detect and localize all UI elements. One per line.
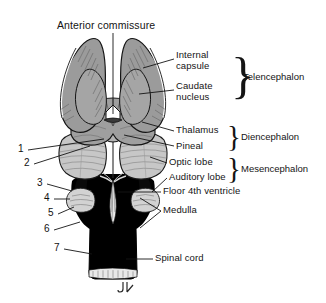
label-internal-capsule-line2: capsule [176, 61, 209, 72]
diencephalon-brace-icon: } [227, 122, 241, 151]
callout-number-6: 6 [44, 223, 50, 234]
label-medulla: Medulla [163, 205, 197, 216]
anterior-commissure-label: Anterior commissure [57, 20, 155, 31]
group-label-diencephalon: Diencephalon [241, 132, 299, 143]
group-label-mesencephalon: Mesencephalon [241, 164, 308, 175]
callout-number-7: 7 [54, 242, 60, 253]
artist-signature [118, 282, 133, 292]
label-thalamus: Thalamus [176, 125, 219, 136]
label-caudate-nucleus-line2: nucleus [176, 92, 209, 103]
label-optic-lobe: Optic lobe [169, 157, 213, 168]
cerebral-hemisphere-right [120, 39, 166, 133]
label-spinal-cord: Spinal cord [155, 253, 204, 264]
callout-number-5: 5 [48, 207, 54, 218]
label-caudate-nucleus-line1: Caudate [176, 81, 213, 92]
label-floor-4th-ventricle: Floor 4th ventricle [163, 186, 240, 197]
brain-diagram-figure: Anterior commissure Internal capsule Cau… [0, 0, 326, 303]
callout-number-4: 4 [44, 192, 50, 203]
label-internal-capsule-line1: Internal [176, 50, 209, 61]
callout-number-3: 3 [37, 177, 43, 188]
cerebral-hemisphere-left [60, 39, 106, 133]
mesencephalon-brace-icon: } [227, 154, 241, 183]
spinal-cord-structure [89, 228, 137, 279]
label-pineal: Pineal [176, 141, 203, 152]
callout-number-1: 1 [18, 143, 24, 154]
group-label-telencephalon: Telencephalon [243, 72, 304, 83]
label-auditory-lobe: Auditory lobe [169, 172, 226, 183]
callout-number-2: 2 [24, 157, 30, 168]
